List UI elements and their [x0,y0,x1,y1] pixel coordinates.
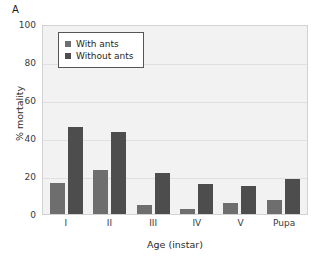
legend-label: Without ants [76,50,133,62]
x-tick-label: I [44,218,88,228]
x-tick-label: Pupa [262,218,306,228]
x-tick-label: II [88,218,132,228]
legend-swatch-icon [65,41,71,47]
bar[interactable] [68,127,83,214]
y-tick-label: 20 [8,172,36,182]
legend-item[interactable]: Without ants [65,50,133,62]
bar[interactable] [155,173,170,214]
x-axis-title: Age (instar) [42,239,308,250]
bar[interactable] [223,203,238,214]
figure: A % mortality 100806040200 IIIIIIIVVPupa… [0,0,315,263]
x-tick-label: V [219,218,263,228]
bar[interactable] [198,184,213,214]
bar[interactable] [267,200,282,214]
y-tick-label: 40 [8,134,36,144]
legend: With antsWithout ants [58,32,144,68]
legend-item[interactable]: With ants [65,38,133,50]
bar[interactable] [93,170,108,214]
bar[interactable] [137,205,152,214]
bar-group [218,26,261,214]
bar[interactable] [50,183,65,214]
y-tick-label: 60 [8,96,36,106]
x-tick-label: IV [175,218,219,228]
bar[interactable] [241,186,256,215]
bar-group [262,26,305,214]
y-tick-label: 80 [8,58,36,68]
x-tick-label: III [131,218,175,228]
legend-swatch-icon [65,53,71,59]
y-axis-tick-labels: 100806040200 [8,0,36,263]
bar-group [175,26,218,214]
x-axis-tick-labels: IIIIIIIVVPupa [42,218,308,228]
y-tick-label: 0 [8,210,36,220]
bar[interactable] [111,132,126,214]
legend-label: With ants [76,38,119,50]
bar[interactable] [180,209,195,214]
y-tick-label: 100 [8,20,36,30]
bar[interactable] [285,179,300,214]
